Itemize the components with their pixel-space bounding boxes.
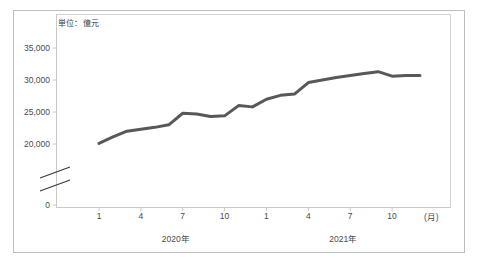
chart-canvas — [0, 0, 480, 266]
x-axis-group-label: 2020年 — [146, 232, 206, 244]
x-tick-label: 4 — [296, 211, 320, 221]
x-tick-label: 1 — [254, 211, 278, 221]
x-tick-label: 10 — [380, 211, 404, 221]
x-tick-label: 1 — [87, 211, 111, 221]
x-axis-group-label: 2021年 — [313, 232, 373, 244]
unit-note-label: 単位：億元 — [58, 17, 99, 28]
x-tick-label: 10 — [213, 211, 237, 221]
chart-figure: 単位：億元 020,00025,00030,00035,000 14710147… — [0, 0, 480, 266]
x-axis-unit-label: (月) — [424, 210, 439, 222]
y-tick-label: 25,000 — [6, 107, 50, 117]
x-tick-label: 7 — [171, 211, 195, 221]
y-tick-label: 35,000 — [6, 43, 50, 53]
data-series-line — [99, 72, 420, 144]
y-axis-ticks — [53, 48, 57, 205]
y-tick-label: 30,000 — [6, 75, 50, 85]
x-tick-label: 7 — [338, 211, 362, 221]
axis-break-symbol — [40, 167, 70, 191]
y-tick-label: 20,000 — [6, 139, 50, 149]
x-tick-label: 4 — [129, 211, 153, 221]
y-tick-label: 0 — [6, 200, 50, 210]
plot-area-frame — [57, 15, 451, 208]
